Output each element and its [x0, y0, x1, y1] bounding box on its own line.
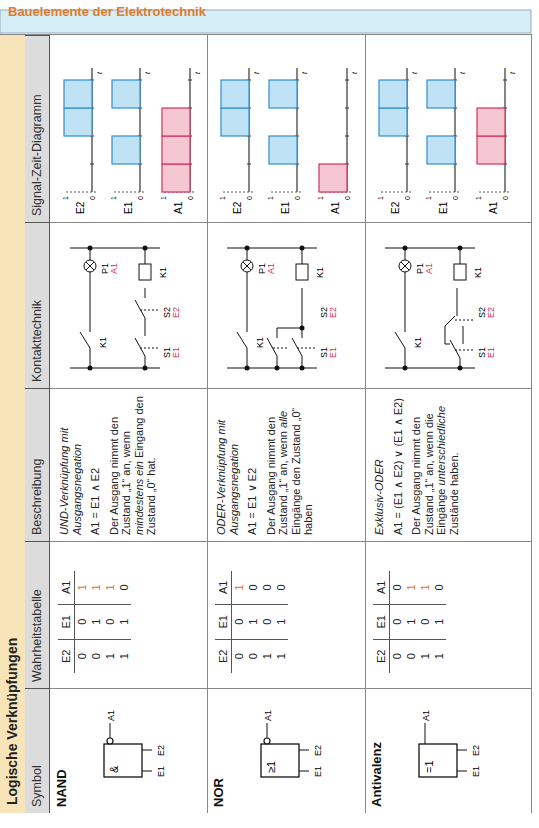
contact-cell: K1 P1 A1 S1 E1 S2 E2 K1 [365, 222, 531, 388]
truth-row: 100 [260, 571, 274, 673]
symbol-cell: Antivalenz =1 A1 E1 E2 [365, 688, 531, 813]
svg-text:1: 1 [317, 196, 324, 200]
truth-cell: 1 [246, 605, 260, 639]
svg-text:E1: E1 [438, 201, 449, 214]
truth-row: 011 [89, 571, 103, 673]
truth-cell: 0 [390, 571, 405, 605]
gate-symbol: ≥1 A1 E1 E2 [227, 693, 337, 813]
svg-text:K1: K1 [255, 337, 265, 348]
col-header-symbol: Symbol [25, 688, 50, 813]
gate-symbol: =1 A1 E1 E2 [385, 693, 495, 813]
gate-operator: ≥1 [265, 761, 277, 773]
truth-header: A1 [373, 571, 390, 605]
truth-cell: 1 [432, 605, 446, 639]
truth-cell: 0 [117, 571, 131, 605]
svg-text:t: t [301, 71, 308, 74]
col-header-signal: Signal-Zeit-Diagramm [25, 35, 50, 222]
truth-cell: 1 [232, 571, 247, 605]
svg-text:1: 1 [475, 196, 482, 200]
svg-text:t: t [144, 71, 151, 74]
truth-cell: 0 [89, 639, 103, 673]
truth-cell: 1 [89, 605, 103, 639]
truth-cell: 1 [260, 639, 274, 673]
svg-text:E1: E1 [171, 347, 181, 358]
truth-cell: 0 [232, 605, 247, 639]
truth-cell: 0 [246, 571, 260, 605]
svg-text:0: 0 [187, 196, 194, 200]
description-cell: Exklusiv-ODER A1 = (E1 ∧ E2) ∨ (E1 ∧ E2)… [365, 388, 531, 541]
col-header-contact: Kontakttechnik [25, 222, 50, 388]
svg-text:0: 0 [137, 196, 144, 200]
svg-text:E1: E1 [123, 201, 134, 214]
negation-bubble [107, 738, 113, 744]
description-text: Der Ausgang nimmt den Zustand „1“ an, we… [108, 395, 158, 535]
truth-cell: 0 [260, 571, 274, 605]
truth-header: E1 [373, 605, 390, 639]
relay-coil [296, 264, 308, 280]
truth-row: 010 [246, 571, 260, 673]
truth-cell: 1 [418, 571, 432, 605]
truth-table-cell: E2E1A1001011101110 [50, 541, 207, 688]
svg-text:E1: E1 [328, 347, 338, 358]
symbol-cell: NAND & A1 E1 E2 [50, 688, 207, 813]
contact-diagram: K1 P1 A1 S1 E1 S2 E2 K1 [50, 222, 200, 388]
signal-e2: E210t [219, 68, 260, 214]
svg-text:0: 0 [294, 196, 301, 200]
svg-text:E1: E1 [471, 766, 481, 777]
truth-row: 110 [274, 571, 288, 673]
signal-cell: E210tE110tA110t [207, 35, 365, 222]
svg-text:A1: A1 [109, 263, 119, 274]
table-row: NOR ≥1 A1 E1 E2 E2E1A1001010100110 ODER-… [207, 35, 366, 813]
svg-text:t: t [509, 71, 516, 74]
svg-text:t: t [96, 71, 103, 74]
truth-cell: 1 [89, 571, 103, 605]
svg-text:K1: K1 [158, 267, 168, 278]
svg-text:1: 1 [62, 196, 69, 200]
signal-a1: A110t [475, 68, 516, 214]
formula: A1 = E1 ∨ E2 [246, 395, 259, 535]
signal-e1: E110t [267, 68, 308, 214]
signal-e2: E210t [62, 68, 103, 214]
svg-text:K1: K1 [473, 267, 483, 278]
gate-operator: & [108, 765, 120, 773]
truth-header: A1 [58, 571, 75, 605]
svg-text:1: 1 [425, 196, 432, 200]
document-page: Bauelemente der Elektrotechnik Logische … [0, 0, 539, 828]
svg-text:K1: K1 [315, 267, 325, 278]
truth-cell: 0 [390, 605, 405, 639]
svg-text:E1: E1 [156, 766, 166, 777]
svg-text:A1: A1 [266, 263, 276, 274]
truth-cell: 0 [232, 639, 247, 673]
truth-cell: 0 [75, 639, 90, 673]
truth-row: 101 [103, 571, 117, 673]
svg-text:E1: E1 [313, 766, 323, 777]
signal-a1: A110t [317, 68, 358, 214]
truth-row: 001 [75, 571, 90, 673]
truth-row: 110 [117, 571, 131, 673]
truth-cell: 0 [390, 639, 405, 673]
svg-text:0: 0 [452, 196, 459, 200]
col-header-description: Beschreibung [25, 388, 50, 541]
svg-text:A1: A1 [263, 710, 273, 721]
svg-text:E2: E2 [328, 307, 338, 318]
truth-header: A1 [215, 571, 232, 605]
svg-text:A1: A1 [421, 710, 431, 721]
truth-cell: 1 [103, 639, 117, 673]
signal-e1: E110t [110, 68, 151, 214]
svg-text:t: t [194, 71, 201, 74]
svg-text:E2: E2 [486, 307, 496, 318]
truth-header: E2 [373, 639, 390, 673]
svg-text:1: 1 [377, 196, 384, 200]
gate-name: NAND [54, 769, 69, 807]
description-text: Der Ausgang nimmt den Zustand „1“ an, we… [410, 395, 460, 535]
svg-text:A1: A1 [488, 201, 499, 214]
svg-text:E2: E2 [232, 201, 243, 214]
truth-cell: 0 [260, 605, 274, 639]
description-text: Der Ausgang nimmt den Zustand „1“ an, we… [265, 395, 315, 535]
signal-time-diagram: E210tE110tA110t [50, 35, 210, 222]
header-bar: Bauelemente der Elektrotechnik [0, 0, 539, 35]
svg-text:1: 1 [219, 196, 226, 200]
section-title: Logische Verknüpfungen [4, 638, 20, 805]
svg-text:E2: E2 [313, 745, 323, 756]
truth-cell: 1 [117, 605, 131, 639]
